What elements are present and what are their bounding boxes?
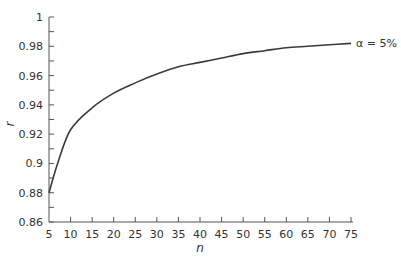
y-tick-label: 1: [36, 11, 43, 24]
chart: 0.860.880.90.920.940.960.981 51015202530…: [0, 0, 401, 265]
x-axis-ticks: 51015202530354045505560657075: [46, 217, 359, 241]
series-line: [49, 43, 351, 192]
x-tick-label: 50: [236, 228, 250, 241]
y-tick-label: 0.9: [26, 157, 44, 170]
y-tick-label: 0.88: [19, 187, 44, 200]
x-tick-label: 10: [64, 228, 78, 241]
y-tick-label: 0.96: [19, 70, 44, 83]
x-tick-label: 75: [344, 228, 358, 241]
y-tick-label: 0.92: [19, 128, 44, 141]
axes: [49, 17, 353, 222]
y-tick-label: 0.98: [19, 40, 44, 53]
x-tick-label: 70: [322, 228, 336, 241]
x-tick-label: 55: [258, 228, 272, 241]
y-tick-label: 0.86: [19, 216, 44, 229]
x-axis-label: n: [196, 241, 204, 255]
x-tick-label: 5: [46, 228, 53, 241]
x-tick-label: 30: [150, 228, 164, 241]
y-axis-label: r: [3, 120, 17, 126]
x-tick-label: 65: [301, 228, 315, 241]
x-tick-label: 60: [279, 228, 293, 241]
series-label: α = 5%: [356, 37, 397, 50]
x-tick-label: 40: [193, 228, 207, 241]
y-tick-label: 0.94: [19, 99, 44, 112]
x-tick-label: 25: [128, 228, 142, 241]
x-tick-label: 35: [171, 228, 185, 241]
x-tick-label: 45: [215, 228, 229, 241]
x-tick-label: 15: [85, 228, 99, 241]
x-tick-label: 20: [107, 228, 121, 241]
